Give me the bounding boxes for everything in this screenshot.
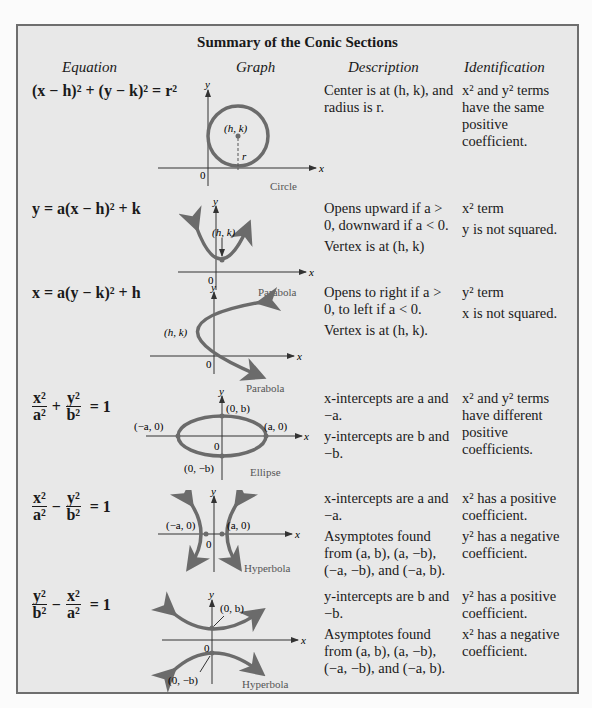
equation-hyperbola-vertical: y²b²−x²a² = 1 [32,588,116,621]
svg-text:(a, 0): (a, 0) [264,420,288,433]
svg-text:Hyperbola: Hyperbola [244,562,291,574]
svg-text:0: 0 [206,358,212,370]
hyperbola-vertical-graph: (0, b) (0, −b) 0 x y Hyperbola [142,588,332,692]
parabola-horizontal-graph: (h, k) 0 x y Parabola [134,284,324,394]
svg-text:(a, 0): (a, 0) [227,519,251,532]
svg-text:x: x [294,528,300,540]
header-identification: Identification [464,59,545,76]
svg-text:Hyperbola: Hyperbola [242,678,289,690]
conic-summary-table: Summary of the Conic Sections Equation G… [16,24,579,694]
svg-text:x: x [308,266,314,278]
svg-text:y: y [208,588,214,600]
svg-text:0: 0 [214,440,220,452]
description-circle: Center is at (h, k), and radius is r. [324,82,454,120]
identification-circle: x² and y² terms have the same positive c… [462,82,574,154]
header-description: Description [348,59,419,76]
svg-text:(h, k): (h, k) [212,226,236,239]
description-hyperbola-horizontal: x-intercepts are a and −a.Asymptotes fou… [324,490,454,583]
identification-ellipse: x² and y² terms have different positive … [462,390,574,462]
svg-text:Ellipse: Ellipse [250,466,281,478]
svg-text:Circle: Circle [270,180,297,192]
svg-text:(−a, 0): (−a, 0) [134,420,164,433]
svg-text:y: y [218,390,224,397]
identification-hyperbola-vertical: y² has a positive coefficient.x² has a n… [462,588,574,664]
svg-text:x: x [303,430,309,442]
svg-text:y: y [210,490,216,497]
svg-text:x: x [318,162,324,174]
svg-text:(0, −b): (0, −b) [184,462,214,475]
identification-parabola-horizontal: y² termx is not squared. [462,284,574,326]
svg-text:0: 0 [206,538,212,550]
row-ellipse: x²a²+y²b² = 1 (0, b) (−a, 0) (a, 0) (0, … [18,390,577,490]
svg-text:0: 0 [200,169,206,181]
svg-text:y: y [210,284,216,293]
description-parabola-vertical: Opens upward if a > 0, downward if a < 0… [324,200,454,259]
description-ellipse: x-intercepts are a and −a.y-intercepts a… [324,390,454,466]
svg-text:y: y [204,82,210,90]
svg-text:r: r [242,150,247,162]
row-hyperbola-vertical: y²b²−x²a² = 1 (0, b) (0, −b) 0 x y Hyper… [18,588,577,692]
equation-ellipse: x²a²+y²b² = 1 [32,390,116,423]
identification-parabola-vertical: x² termy is not squared. [462,200,574,242]
svg-text:(0, b): (0, b) [220,602,244,615]
header-graph: Graph [236,59,275,76]
svg-text:0: 0 [204,642,210,654]
equation-parabola-horizontal: x = a(y − k)² + h [32,284,141,302]
row-hyperbola-horizontal: x²a²−y²b² = 1 (−a, 0) (a, 0) 0 x y Hyper… [18,490,577,590]
equation-hyperbola-horizontal: x²a²−y²b² = 1 [32,490,116,523]
description-hyperbola-vertical: y-intercepts are b and −b.Asymptotes fou… [324,588,454,681]
svg-text:y: y [212,200,218,207]
table-title: Summary of the Conic Sections [18,34,577,51]
svg-text:(−a, 0): (−a, 0) [166,519,196,532]
hyperbola-horizontal-graph: (−a, 0) (a, 0) 0 x y Hyperbola [138,490,328,590]
equation-parabola-vertical: y = a(x − h)² + k [32,200,141,218]
row-circle: (x − h)² + (y − k)² = r² (h, k) r 0 x y … [18,82,577,192]
description-parabola-horizontal: Opens to right if a > 0, to left if a < … [324,284,454,343]
svg-text:x: x [300,634,306,646]
circle-graph: (h, k) r 0 x y Circle [138,82,328,192]
identification-hyperbola-horizontal: x² has a positive coefficient.y² has a n… [462,490,574,566]
svg-text:(h, k): (h, k) [164,326,188,339]
svg-text:(0, b): (0, b) [226,402,250,415]
svg-text:(0, −b): (0, −b) [168,674,198,687]
ellipse-graph: (0, b) (−a, 0) (a, 0) (0, −b) 0 x y Elli… [126,390,326,490]
header-equation: Equation [62,59,117,76]
svg-text:x: x [296,350,302,362]
svg-text:(h, k): (h, k) [224,122,248,135]
row-parabola-horizontal: x = a(y − k)² + h (h, k) 0 x y Parabola … [18,284,577,396]
